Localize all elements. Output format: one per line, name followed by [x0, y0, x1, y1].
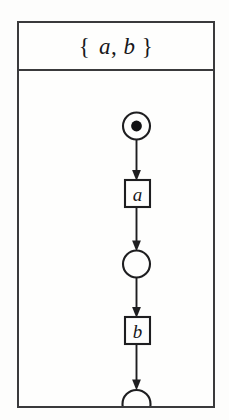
arc-transition-a-to-place1: [132, 207, 141, 252]
header-symbol-b: b: [123, 34, 135, 59]
figure-header: { a, b }: [19, 23, 213, 71]
token-dot: [131, 121, 142, 132]
place-circle[interactable]: [123, 251, 150, 278]
arc-place0-to-transition-a: [132, 140, 141, 182]
arc-transition-b-to-place2: [132, 344, 141, 391]
transition-a-label: a: [133, 184, 143, 205]
place-p1[interactable]: [123, 251, 150, 278]
transition-b-label: b: [133, 321, 143, 342]
header-open-brace: {: [79, 34, 91, 59]
header-close-brace: }: [142, 34, 154, 59]
arrowhead-icon: [132, 380, 141, 391]
net-canvas: a b: [19, 71, 213, 406]
arc-place1-to-transition-b: [132, 278, 141, 319]
place-p2[interactable]: [123, 390, 151, 406]
header-title: { a, b }: [79, 35, 154, 58]
petri-net-figure: { a, b }: [0, 0, 229, 420]
transition-a[interactable]: a: [125, 180, 150, 207]
header-symbol-a: a: [99, 34, 111, 59]
petri-net-graph: a b: [19, 71, 213, 406]
place-circle[interactable]: [123, 390, 151, 406]
transition-b[interactable]: b: [125, 317, 150, 344]
place-p0[interactable]: [123, 113, 150, 140]
figure-frame: { a, b }: [17, 21, 215, 408]
header-separator: ,: [111, 34, 117, 59]
